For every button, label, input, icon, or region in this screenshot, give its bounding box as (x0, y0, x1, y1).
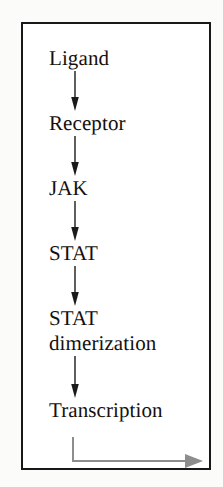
arrow-stat-dimerization-to-transcription (68, 356, 82, 398)
flow-node-stat: STAT (49, 241, 98, 266)
flow-node-jak: JAK (49, 176, 88, 201)
flow-node-transcription: Transcription (49, 398, 163, 423)
arrow-ligand-to-receptor (68, 71, 82, 111)
arrow-transcription-output (67, 436, 207, 472)
arrow-jak-to-stat (68, 201, 82, 241)
arrow-stat-to-stat-dimerization (68, 266, 82, 306)
flow-node-ligand: Ligand (49, 46, 109, 71)
arrow-receptor-to-jak (68, 136, 82, 176)
flow-node-receptor: Receptor (49, 111, 126, 136)
figure-frame: Ligand Receptor JAK STAT (21, 22, 211, 470)
flow-node-stat-dimerization: STAT dimerization (49, 306, 156, 356)
pathway-flowchart: Ligand Receptor JAK STAT (23, 24, 213, 472)
